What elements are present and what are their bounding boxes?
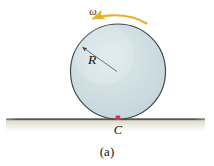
figure-caption: (a) xyxy=(100,144,114,159)
figure-canvas: R ω C (a) xyxy=(0,0,214,166)
physics-figure-rolling-disk: R ω C (a) xyxy=(0,0,214,166)
contact-point-dot xyxy=(116,116,121,120)
disk-highlight xyxy=(74,25,134,85)
angular-velocity-label: ω xyxy=(89,6,96,17)
ground-shading xyxy=(6,120,205,132)
ground-line xyxy=(6,118,205,120)
radius-label: R xyxy=(87,52,97,67)
contact-point-label: C xyxy=(114,123,123,137)
angular-velocity-arrow xyxy=(93,15,146,23)
